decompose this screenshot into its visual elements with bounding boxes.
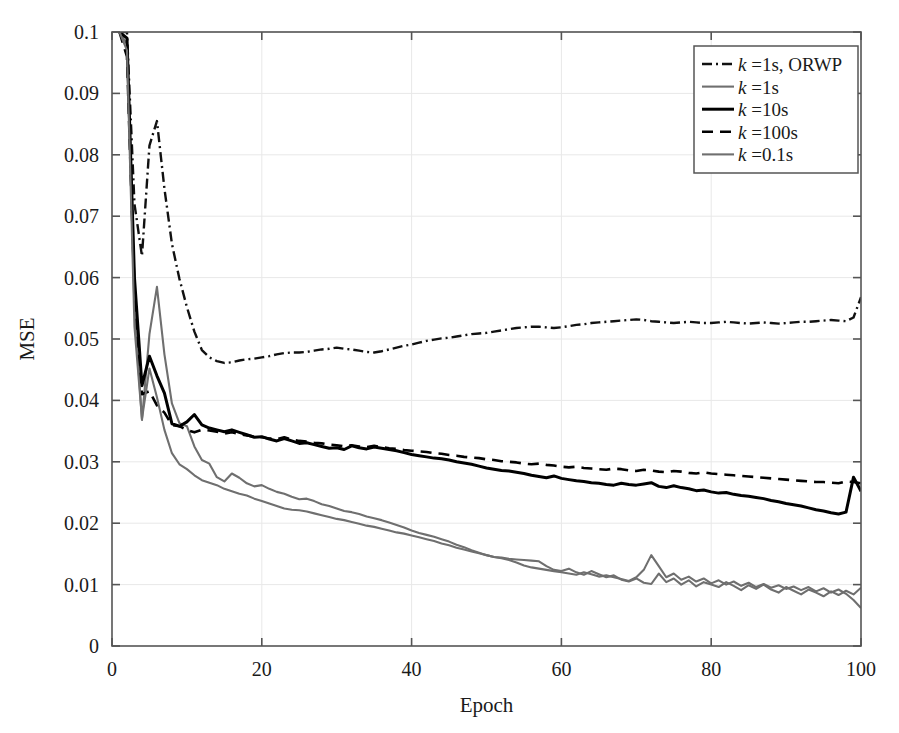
x-tick-label: 40 xyxy=(402,658,422,680)
y-tick-label: 0.01 xyxy=(64,574,99,596)
y-tick-label: 0.08 xyxy=(64,144,99,166)
y-tick-label: 0.02 xyxy=(64,512,99,534)
legend-label-0[interactable]: k =1s, ORWP xyxy=(738,54,842,75)
mse-epoch-chart-figure: 020406080100 00.010.020.030.040.050.060.… xyxy=(0,0,899,733)
y-tick-label: 0.04 xyxy=(64,389,99,411)
chart-legend[interactable]: k =1s, ORWPk =1sk =10sk =100sk =0.1s xyxy=(694,46,858,173)
y-tick-label: 0.09 xyxy=(64,82,99,104)
x-tick-label: 80 xyxy=(701,658,721,680)
x-tick-label: 0 xyxy=(107,658,117,680)
x-tick-label: 60 xyxy=(551,658,571,680)
legend-label-4[interactable]: k =0.1s xyxy=(738,144,793,165)
legend-label-1[interactable]: k =1s xyxy=(738,77,779,98)
y-tick-label: 0.03 xyxy=(64,451,99,473)
y-tick-label: 0.05 xyxy=(64,328,99,350)
y-tick-label: 0.06 xyxy=(64,267,99,289)
y-tick-label: 0 xyxy=(89,635,99,657)
x-tick-label: 20 xyxy=(252,658,272,680)
y-tick-label: 0.1 xyxy=(74,21,99,43)
x-tick-label: 100 xyxy=(846,658,876,680)
y-tick-label: 0.07 xyxy=(64,205,99,227)
legend-label-2[interactable]: k =10s xyxy=(738,99,788,120)
chart-canvas: 020406080100 00.010.020.030.040.050.060.… xyxy=(0,0,899,733)
y-axis-label: MSE xyxy=(15,317,39,360)
legend-label-3[interactable]: k =100s xyxy=(738,122,798,143)
x-axis-label: Epoch xyxy=(460,693,514,717)
